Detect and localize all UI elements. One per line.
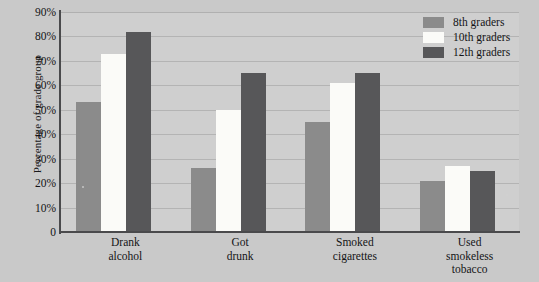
y-tick-label: 20%	[18, 177, 56, 189]
bar[interactable]	[470, 171, 495, 232]
legend-label: 12th graders	[453, 46, 510, 58]
x-category-label: Drankalcohol	[68, 236, 183, 263]
x-category-label-line: drunk	[183, 250, 298, 264]
y-tick-label: 50%	[18, 104, 56, 116]
y-tick-label: 70%	[18, 55, 56, 67]
x-category-label-line: Drank	[68, 236, 183, 250]
legend-swatch	[423, 47, 444, 58]
bar[interactable]	[330, 83, 355, 232]
bar[interactable]	[101, 54, 126, 232]
bar-group	[191, 12, 266, 232]
x-category-label-line: alcohol	[68, 250, 183, 264]
x-category-label-line: smokeless	[412, 250, 527, 264]
y-axis-line	[59, 10, 61, 234]
x-axis-category-labels: DrankalcoholGotdrunkSmokedcigarettesUsed…	[60, 236, 519, 282]
y-axis-tick-labels: 90%80%70%60%50%40%30%20%10%0	[18, 0, 56, 282]
bar[interactable]	[191, 168, 216, 232]
legend-item[interactable]: 8th graders	[423, 15, 535, 29]
y-tick-label: 10%	[18, 202, 56, 214]
bar[interactable]	[76, 102, 101, 232]
bar[interactable]	[241, 73, 266, 232]
legend-swatch	[423, 17, 444, 28]
legend-item[interactable]: 12th graders	[423, 45, 535, 59]
bar[interactable]	[126, 32, 151, 232]
bar[interactable]	[216, 110, 241, 232]
y-tick-label: 60%	[18, 79, 56, 91]
y-tick-label: 40%	[18, 128, 56, 140]
bar-group	[305, 12, 380, 232]
x-category-label: Smokedcigarettes	[298, 236, 413, 263]
x-category-label-line: tobacco	[412, 263, 527, 277]
bar[interactable]	[305, 122, 330, 232]
x-category-label: Usedsmokelesstobacco	[412, 236, 527, 277]
legend-label: 8th graders	[453, 16, 504, 28]
bar[interactable]	[445, 166, 470, 232]
scan-artifact	[506, 194, 508, 196]
legend-swatch	[423, 32, 444, 43]
x-category-label-line: Used	[412, 236, 527, 250]
x-category-label: Gotdrunk	[183, 236, 298, 263]
x-category-label-line: cigarettes	[298, 250, 413, 264]
legend-label: 10th graders	[453, 31, 510, 43]
scan-artifact	[82, 186, 84, 188]
y-tick-label: 80%	[18, 30, 56, 42]
bar-chart: Percentage of grade group 90%80%70%60%50…	[0, 0, 539, 282]
x-category-label-line: Smoked	[298, 236, 413, 250]
y-tick-label: 30%	[18, 153, 56, 165]
y-tick-label: 0	[18, 226, 56, 238]
y-tick-label: 90%	[18, 6, 56, 18]
bar[interactable]	[355, 73, 380, 232]
legend: 8th graders10th graders12th graders	[423, 15, 535, 60]
x-category-label-line: Got	[183, 236, 298, 250]
bar[interactable]	[420, 181, 445, 232]
x-axis-line	[59, 231, 520, 233]
bar-group	[76, 12, 151, 232]
legend-item[interactable]: 10th graders	[423, 30, 535, 44]
